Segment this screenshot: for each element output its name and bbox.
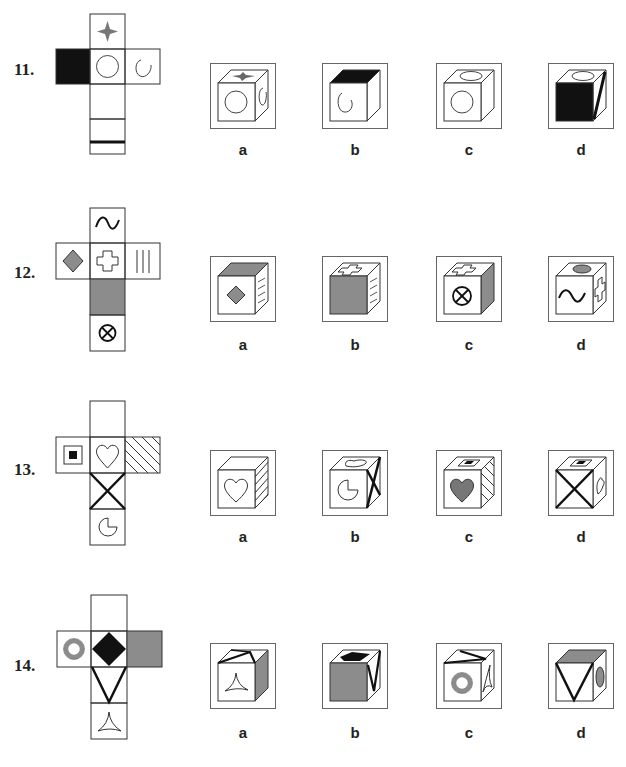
circled-x-icon [100, 325, 116, 341]
cube-net-11 [55, 13, 163, 158]
option-13c[interactable] [436, 450, 502, 516]
option-label-11c: c [436, 141, 502, 158]
option-label-13a: a [210, 528, 276, 545]
option-label-13d: d [548, 528, 614, 545]
option-14a[interactable] [210, 643, 276, 709]
three-point-star-icon [98, 712, 121, 731]
cube-net-14 [56, 594, 164, 744]
cross-outline-icon [97, 251, 118, 271]
gray-ring-icon [66, 641, 82, 657]
option-label-14b: b [322, 724, 388, 741]
spiral-icon [136, 60, 151, 77]
option-12b[interactable] [322, 256, 388, 322]
option-13d[interactable] [548, 450, 614, 516]
option-12d[interactable] [548, 256, 614, 322]
option-13a[interactable] [210, 450, 276, 516]
thick-v-icon [92, 667, 126, 702]
diagonal-hatch-icon [125, 430, 163, 500]
option-label-12a: a [210, 336, 276, 353]
thick-x-icon [90, 473, 125, 509]
option-14d[interactable] [548, 643, 614, 709]
option-11a[interactable] [210, 63, 276, 129]
option-label-12b: b [322, 336, 388, 353]
option-14b[interactable] [322, 643, 388, 709]
black-diamond-icon [92, 632, 126, 666]
option-12a[interactable] [210, 256, 276, 322]
heart-outline-icon [96, 445, 118, 468]
option-14c[interactable] [436, 643, 502, 709]
question-number-11: 11. [14, 60, 34, 80]
square-in-square-icon [64, 446, 82, 464]
option-label-14d: d [548, 724, 614, 741]
option-label-14a: a [210, 724, 276, 741]
cube-net-13 [55, 400, 163, 550]
option-label-11b: b [322, 141, 388, 158]
option-13b[interactable] [322, 450, 388, 516]
option-label-11d: d [548, 141, 614, 158]
question-number-12: 12. [14, 263, 35, 283]
circle-icon [97, 56, 119, 78]
four-point-star-icon [97, 21, 118, 42]
option-label-14c: c [436, 724, 502, 741]
option-label-12c: c [436, 336, 502, 353]
cube-net-12 [55, 207, 163, 357]
vertical-lines-icon [137, 250, 149, 273]
question-number-14: 14. [14, 656, 35, 676]
gray-diamond-icon [63, 250, 83, 272]
pac-shape-icon [99, 518, 117, 536]
gray-ellipse-icon [573, 265, 591, 273]
option-label-13b: b [322, 528, 388, 545]
option-11d[interactable] [548, 63, 614, 129]
option-label-12d: d [548, 336, 614, 353]
option-12c[interactable] [436, 256, 502, 322]
gray-ellipse-icon [596, 667, 604, 687]
wave-icon [96, 217, 119, 228]
question-number-13: 13. [14, 460, 35, 480]
option-label-13c: c [436, 528, 502, 545]
option-11b[interactable] [322, 63, 388, 129]
option-11c[interactable] [436, 63, 502, 129]
option-label-11a: a [210, 141, 276, 158]
